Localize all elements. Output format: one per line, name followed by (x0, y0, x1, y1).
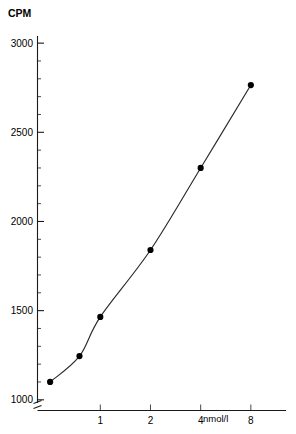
x-axis-tick-label: 8 (248, 415, 254, 426)
x-axis-tick-label: 1 (98, 415, 104, 426)
standard-curve-chart: CPM nmol/l 10001500200025003000 1248 (0, 0, 296, 434)
data-point-marker (248, 82, 254, 88)
x-axis-major-ticks (100, 405, 251, 411)
y-axis-tick-label: 2000 (11, 216, 34, 227)
y-axis-title: CPM (8, 7, 32, 19)
series-data-points (47, 82, 254, 385)
series-curve (50, 85, 251, 382)
x-axis-tick-label: 2 (148, 415, 154, 426)
chart-container: CPM nmol/l 10001500200025003000 1248 (0, 0, 296, 434)
data-point-marker (147, 247, 153, 253)
data-point-marker (198, 165, 204, 171)
axis-break-marker (34, 401, 42, 409)
data-point-marker (97, 314, 103, 320)
x-axis-tick-label: 4 (198, 415, 204, 426)
y-axis-tick-label: 1000 (11, 394, 34, 405)
x-axis-tick-labels: 1248 (98, 415, 255, 426)
x-axis-unit-label: nmol/l (203, 413, 228, 424)
y-axis-tick-label: 2500 (11, 127, 34, 138)
data-point-marker (76, 353, 82, 359)
data-point-marker (47, 379, 53, 385)
series-line-path (50, 85, 251, 382)
y-axis-tick-labels: 10001500200025003000 (11, 38, 34, 406)
y-axis-tick-label: 1500 (11, 305, 34, 316)
y-axis-tick-label: 3000 (11, 38, 34, 49)
